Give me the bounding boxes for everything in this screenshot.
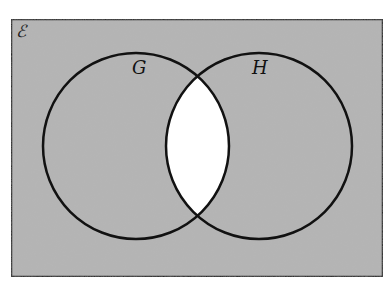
set-g-label: G	[132, 57, 146, 78]
venn-diagram: ℰ G H	[0, 0, 391, 284]
set-h-label: H	[251, 57, 268, 78]
